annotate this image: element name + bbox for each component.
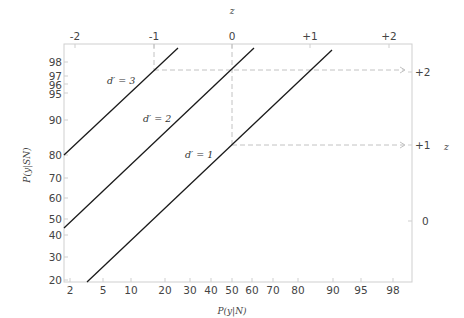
top-tick-label: 0 bbox=[229, 30, 236, 42]
right-tick-label: +2 bbox=[415, 66, 430, 78]
y-axis-label: P(y|SN) bbox=[22, 147, 33, 184]
line-d3 bbox=[64, 48, 178, 155]
bottom-axis-ticks: 2 5 10 20 30 40 50 60 70 80 90 95 98 bbox=[67, 278, 400, 296]
right-axis-label: z bbox=[443, 142, 449, 152]
svg-text:80: 80 bbox=[49, 149, 62, 161]
svg-text:95: 95 bbox=[49, 88, 62, 100]
top-axis-ticks: -2 -1 0 +1 +2 bbox=[70, 30, 397, 48]
svg-text:30: 30 bbox=[183, 284, 196, 296]
right-tick-label: +1 bbox=[415, 139, 430, 151]
top-tick-label: -1 bbox=[149, 30, 159, 42]
svg-text:95: 95 bbox=[354, 284, 367, 296]
svg-text:90: 90 bbox=[326, 284, 339, 296]
svg-text:60: 60 bbox=[245, 284, 258, 296]
signal-detection-chart: z -2 -1 0 +1 +2 +2 +1 0 z 98 97 bbox=[0, 0, 464, 318]
svg-text:20: 20 bbox=[158, 284, 171, 296]
top-tick-label: +2 bbox=[381, 30, 396, 42]
svg-text:30: 30 bbox=[49, 251, 62, 263]
top-tick-label: +1 bbox=[302, 30, 317, 42]
dashed-guides bbox=[154, 44, 404, 145]
svg-text:70: 70 bbox=[266, 284, 279, 296]
d-prime-lines bbox=[64, 48, 332, 282]
right-axis-ticks: +2 +1 0 bbox=[408, 66, 430, 227]
svg-text:5: 5 bbox=[100, 284, 107, 296]
svg-text:60: 60 bbox=[49, 192, 62, 204]
line-d2 bbox=[64, 48, 254, 228]
svg-text:90: 90 bbox=[49, 114, 62, 126]
svg-text:98: 98 bbox=[49, 56, 62, 68]
label-d1: d′ = 1 bbox=[185, 149, 213, 160]
svg-text:10: 10 bbox=[124, 284, 137, 296]
svg-text:50: 50 bbox=[225, 284, 238, 296]
x-axis-label: P(y|N) bbox=[216, 306, 247, 317]
top-axis-label: z bbox=[229, 6, 235, 16]
svg-text:98: 98 bbox=[386, 284, 399, 296]
label-d2: d′ = 2 bbox=[143, 113, 171, 124]
left-axis-ticks: 98 97 96 95 90 80 70 60 50 40 30 20 bbox=[49, 56, 68, 286]
label-d3: d′ = 3 bbox=[107, 75, 135, 86]
svg-text:50: 50 bbox=[49, 213, 62, 225]
top-tick-label: -2 bbox=[70, 30, 80, 42]
svg-text:70: 70 bbox=[49, 172, 62, 184]
svg-text:2: 2 bbox=[67, 284, 74, 296]
right-tick-label: 0 bbox=[422, 215, 429, 227]
arrow-icon bbox=[400, 67, 405, 148]
svg-text:40: 40 bbox=[49, 229, 62, 241]
svg-text:80: 80 bbox=[291, 284, 304, 296]
svg-text:40: 40 bbox=[204, 284, 217, 296]
svg-text:20: 20 bbox=[49, 274, 62, 286]
